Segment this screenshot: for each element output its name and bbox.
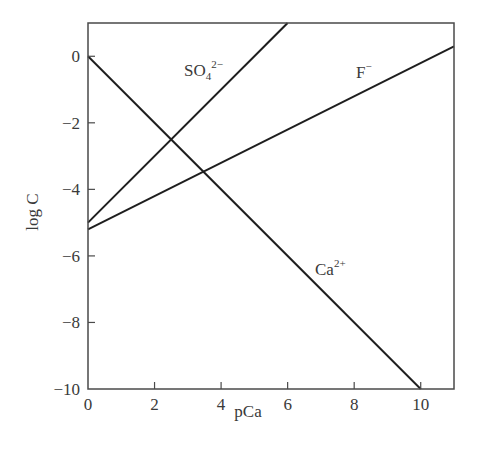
x-axis-label: pCa xyxy=(234,402,262,421)
y-tick-label: −8 xyxy=(62,313,80,332)
x-tick-label: 6 xyxy=(283,395,292,414)
series-label-0: Ca2+ xyxy=(315,257,346,279)
series-label-2: F− xyxy=(356,60,372,82)
series-line-0 xyxy=(88,56,421,389)
x-tick-label: 2 xyxy=(150,395,159,414)
series-label-1: SO42− xyxy=(184,58,223,82)
chart-figure: 0246810 0−2−4−6−8−10 pCa log C Ca2+SO42−… xyxy=(0,0,481,455)
y-tick-label: 0 xyxy=(72,47,81,66)
x-tick-label: 0 xyxy=(84,395,93,414)
plot-frame xyxy=(88,23,454,389)
y-tick-label: −2 xyxy=(62,114,80,133)
y-tick-label: −4 xyxy=(62,180,81,199)
y-axis-label: log C xyxy=(23,193,42,230)
y-tick-label: −10 xyxy=(53,380,80,399)
y-tick-label: −6 xyxy=(62,247,80,266)
x-tick-label: 10 xyxy=(412,395,429,414)
x-tick-label: 4 xyxy=(217,395,226,414)
series-line-1 xyxy=(88,23,288,223)
plot-lines xyxy=(88,23,454,389)
series-line-2 xyxy=(88,46,454,229)
x-tick-label: 8 xyxy=(350,395,359,414)
